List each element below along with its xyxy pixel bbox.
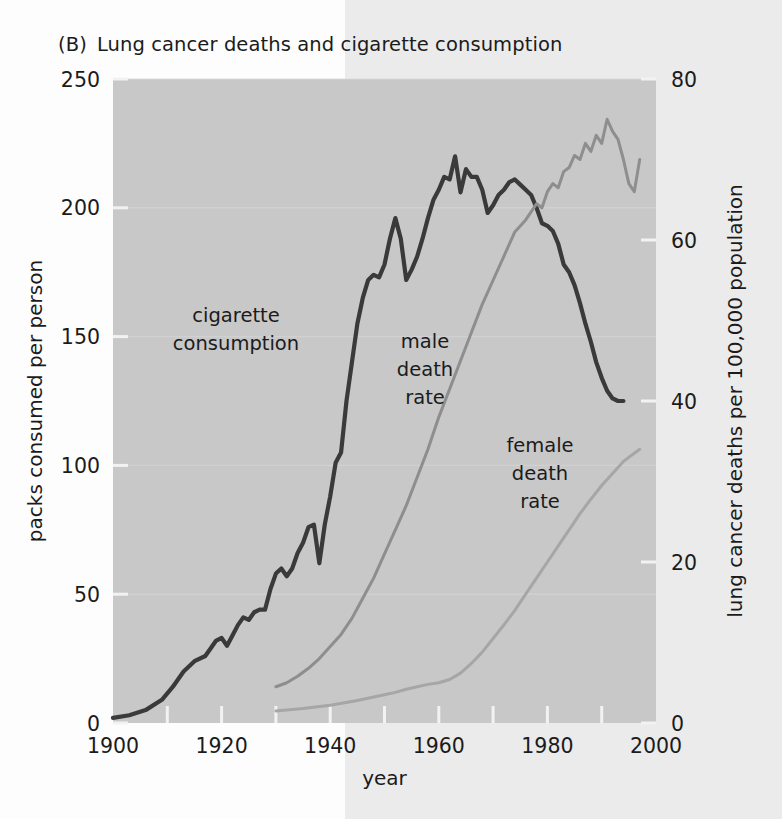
ytick-label-left: 0 [87,712,100,736]
xtick-label: 1980 [521,734,573,758]
chart-canvas: 0501001502002500204060801900192019401960… [0,0,782,819]
plot-area-background [113,79,656,723]
annotation-male-death-rate: rate [405,386,445,409]
annotation-female-death-rate: rate [520,490,560,513]
yaxis-title-left: packs consumed per person [23,260,47,542]
ytick-label-right: 60 [671,229,697,253]
xtick-label: 2000 [630,734,682,758]
ytick-label-left: 150 [61,325,100,349]
ytick-label-left: 50 [74,583,100,607]
xtick-label: 1960 [413,734,465,758]
annotation-female-death-rate: female [506,434,573,457]
ytick-label-right: 0 [671,712,684,736]
ytick-label-right: 80 [671,68,697,92]
annotation-female-death-rate: death [512,462,568,485]
plot-wrapper: 0501001502002500204060801900192019401960… [0,0,782,819]
yaxis-title-right: lung cancer deaths per 100,000 populatio… [723,184,747,617]
ytick-label-left: 200 [61,196,100,220]
ytick-label-left: 100 [61,454,100,478]
annotation-male-death-rate: death [397,358,453,381]
ytick-label-right: 40 [671,390,697,414]
annotation-cigarette: cigarette [192,304,279,327]
xtick-label: 1900 [87,734,139,758]
plot-area-rect [113,79,656,723]
xaxis-title: year [362,766,407,790]
annotation-cigarette: consumption [173,332,299,355]
ytick-label-right: 20 [671,551,697,575]
xtick-label: 1920 [196,734,248,758]
ytick-label-left: 250 [61,68,100,92]
figure-panel-b: (B)Lung cancer deaths and cigarette cons… [0,0,782,819]
annotation-male-death-rate: male [401,330,449,353]
xtick-label: 1940 [304,734,356,758]
